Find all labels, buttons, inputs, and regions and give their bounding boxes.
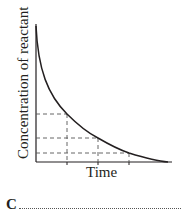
decay-curve: [36, 26, 168, 162]
x-axis-label: Time: [86, 163, 117, 181]
dashed-guides: [36, 114, 129, 162]
decay-chart: Concentration of reactant Time: [0, 0, 181, 185]
dotted-answer-blank: [19, 208, 181, 209]
answer-letter: C: [6, 196, 17, 212]
y-axis-label: Concentration of reactant: [14, 29, 32, 159]
answer-line: C: [6, 196, 178, 212]
